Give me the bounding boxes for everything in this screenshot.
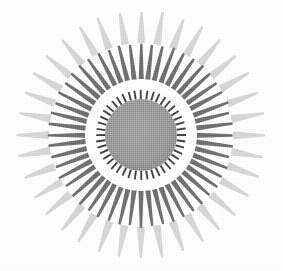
sunburst-figure bbox=[0, 0, 283, 271]
halftone-overlay bbox=[0, 0, 283, 271]
sunburst-canvas bbox=[0, 0, 283, 271]
